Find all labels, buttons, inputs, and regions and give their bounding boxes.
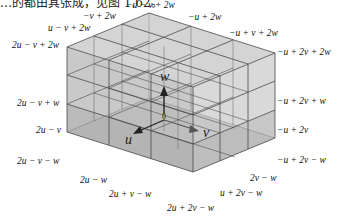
label-left-1: 2u − v + w — [17, 98, 60, 108]
label-top-left-2: u − v + 2w — [48, 23, 91, 33]
w-label: w — [160, 69, 170, 84]
label-bottom-front: 2u + 2v − w — [167, 203, 215, 213]
label-top-right-1: −u + 2w — [188, 12, 222, 22]
label-top-right-2: −u + v + 2w — [229, 28, 278, 38]
label-top-right-corner: −u + 2v + 2w — [277, 47, 331, 57]
origin-label: 0 — [162, 112, 166, 121]
label-bottom-left-2: 2u + v − w — [109, 189, 152, 199]
label-top-left-corner: 2u − v + 2w — [12, 40, 60, 50]
label-left-2: 2u − v — [36, 125, 62, 135]
label-left-bottom: 2u − v − w — [17, 156, 60, 166]
label-right-2: −u + 2v — [277, 125, 309, 135]
label-bottom-right-2: u + 2v − w — [220, 188, 263, 198]
label-right-1: −u + 2v + w — [277, 96, 326, 106]
v-label: v — [203, 125, 210, 140]
label-bottom-right-1: 2v − w — [250, 173, 277, 183]
u-label: u — [125, 132, 132, 147]
label-right-bottom: −u + 2v − w — [277, 155, 326, 165]
lattice-diagram: w u v 0 −u − v + 2w −v + 2w u − v + 2w 2… — [0, 0, 340, 223]
label-top-left-1: −v + 2w — [83, 11, 117, 21]
label-top-back: −u − v + 2w — [126, 0, 175, 10]
label-bottom-left-1: 2u − w — [80, 175, 108, 185]
